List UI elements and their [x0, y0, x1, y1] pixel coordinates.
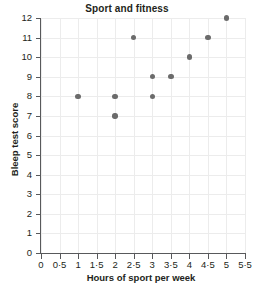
chart-title: Sport and fitness	[0, 3, 254, 14]
x-axis-line	[40, 253, 246, 254]
gridline-horizontal	[41, 233, 245, 234]
y-axis-tick	[36, 96, 41, 97]
y-axis-tick-label: 9	[8, 71, 32, 82]
gridline-horizontal	[41, 136, 245, 137]
gridline-horizontal	[41, 194, 245, 195]
plot-area	[41, 18, 245, 253]
gridline-horizontal	[41, 96, 245, 97]
y-axis-tick-label: 10	[8, 51, 32, 62]
y-axis-tick-label: 11	[8, 32, 32, 43]
y-axis-tick	[36, 116, 41, 117]
y-axis-tick-label: 7	[8, 110, 32, 121]
gridline-horizontal	[41, 77, 245, 78]
data-point	[224, 15, 229, 20]
data-point	[205, 35, 210, 40]
y-axis-tick	[36, 77, 41, 78]
y-axis-tick	[36, 38, 41, 39]
y-axis-tick	[36, 214, 41, 215]
y-axis-tick	[36, 155, 41, 156]
y-axis-tick-label: 12	[8, 12, 32, 23]
y-axis-tick	[36, 18, 41, 19]
data-point	[112, 113, 117, 118]
data-point	[168, 74, 173, 79]
gridline-vertical	[245, 18, 246, 253]
data-point	[112, 94, 117, 99]
gridline-horizontal	[41, 155, 245, 156]
y-axis-tick-label: 2	[8, 208, 32, 219]
data-point	[187, 54, 192, 59]
gridline-horizontal	[41, 18, 245, 19]
y-axis-tick	[36, 175, 41, 176]
y-axis-tick-label: 6	[8, 130, 32, 141]
x-axis-title: Hours of sport per week	[34, 272, 248, 283]
y-axis-tick-label: 3	[8, 188, 32, 199]
y-axis-tick	[36, 194, 41, 195]
gridline-horizontal	[41, 175, 245, 176]
x-axis-tick-label: 5·5	[230, 259, 254, 270]
data-point	[75, 94, 80, 99]
gridline-horizontal	[41, 38, 245, 39]
y-axis-tick-label: 0	[8, 247, 32, 258]
scatter-chart: Sport and fitness Bleep test score Hours…	[0, 0, 254, 290]
y-axis-tick-label: 4	[8, 169, 32, 180]
gridline-horizontal	[41, 57, 245, 58]
y-axis-tick	[36, 233, 41, 234]
y-axis-tick-label: 5	[8, 149, 32, 160]
gridline-horizontal	[41, 116, 245, 117]
y-axis-tick-label: 1	[8, 227, 32, 238]
y-axis-tick-label: 8	[8, 90, 32, 101]
y-axis-tick	[36, 136, 41, 137]
gridline-horizontal	[41, 214, 245, 215]
y-axis-tick	[36, 57, 41, 58]
data-point	[150, 94, 155, 99]
